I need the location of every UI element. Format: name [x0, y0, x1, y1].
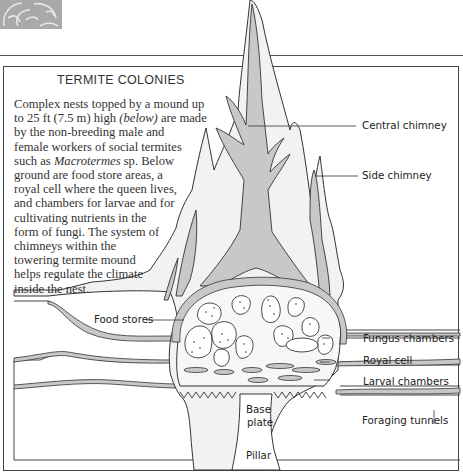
description-line: chimneys within the — [14, 239, 214, 253]
description-line: by the non-breeding male and — [14, 125, 214, 139]
description-line: and chambers for larvae and for — [14, 196, 214, 210]
label-side-chimney: Side chimney — [362, 169, 432, 181]
label-base-plate-line1: Base — [246, 403, 271, 415]
diagram-title: TERMITE COLONIES — [57, 73, 185, 87]
description-line: to 25 ft (7.5 m) high (below) are made — [14, 111, 214, 125]
description-line: royal cell where the queen lives, — [14, 182, 214, 196]
description-line: Complex nests topped by a mound up — [14, 97, 214, 111]
description-line: form of fungi. The system of — [14, 225, 214, 239]
label-pillar: Pillar — [246, 449, 271, 461]
description-line: cultivating nutrients in the — [14, 211, 214, 225]
label-royal-cell: Royal cell — [363, 354, 412, 366]
description-line: ground are food store areas, a — [14, 168, 214, 182]
description-line: inside the nest. — [14, 282, 214, 296]
description-line: towering termite mound — [14, 253, 214, 267]
description-paragraph: Complex nests topped by a mound up to 25… — [14, 97, 214, 296]
label-base-plate-line2: plate — [247, 416, 273, 428]
description-line: female workers of social termites — [14, 140, 214, 154]
label-foraging-tunnels: Foraging tunnels — [362, 414, 448, 426]
description-line: helps regulate the climate — [14, 267, 214, 281]
description-line: such as Macrotermes sp. Below — [14, 154, 214, 168]
label-food-stores: Food stores — [94, 313, 153, 325]
label-central-chimney: Central chimney — [362, 119, 447, 131]
label-fungus-chambers: Fungus chambers — [363, 332, 454, 344]
label-larval-chambers: Larval chambers — [363, 375, 449, 387]
